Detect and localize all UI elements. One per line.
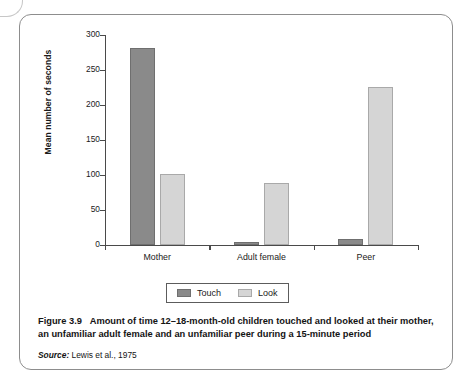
y-tick-label-wrap: 200 bbox=[64, 100, 100, 110]
y-tick-label-wrap: 50 bbox=[64, 205, 100, 215]
y-tick-label-wrap: 100 bbox=[64, 170, 100, 180]
figure-caption-label: Figure 3.9 bbox=[38, 316, 82, 326]
x-axis-line bbox=[105, 245, 418, 246]
y-axis-title: Mean number of seconds bbox=[43, 22, 53, 182]
x-axis-label-peer: Peer bbox=[314, 252, 418, 262]
chart-legend: TouchLook bbox=[166, 283, 289, 303]
x-tick-mark bbox=[105, 245, 106, 250]
legend-entry-look: Look bbox=[238, 288, 278, 298]
legend-label: Look bbox=[258, 288, 278, 298]
source-label: Source: bbox=[38, 350, 69, 360]
legend-swatch-look-icon bbox=[238, 289, 252, 297]
x-tick-mark bbox=[314, 245, 315, 250]
y-tick-label: 300 bbox=[72, 30, 100, 38]
y-tick-mark bbox=[100, 210, 105, 211]
bar-peer-touch bbox=[338, 239, 363, 245]
y-tick-mark bbox=[100, 70, 105, 71]
bar-peer-look bbox=[368, 87, 393, 245]
legend-entry-touch: Touch bbox=[177, 288, 221, 298]
source-value: Lewis et al., 1975 bbox=[72, 350, 137, 360]
y-tick-label-wrap: 0 bbox=[64, 240, 100, 250]
y-tick-label: 200 bbox=[72, 100, 100, 108]
bar-chart-plot: Mean number of seconds 05010015020025030… bbox=[20, 15, 453, 263]
bar-mother-look bbox=[160, 174, 185, 245]
y-tick-label: 50 bbox=[72, 205, 100, 213]
x-axis-label-mother: Mother bbox=[105, 252, 209, 262]
y-tick-label: 250 bbox=[72, 65, 100, 73]
y-tick-label-wrap: 150 bbox=[64, 135, 100, 145]
figure-source-line: Source: Lewis et al., 1975 bbox=[38, 350, 436, 360]
x-tick-mark bbox=[418, 245, 419, 250]
bar-adult-female-look bbox=[264, 183, 289, 245]
y-tick-mark bbox=[100, 35, 105, 36]
figure-caption: Figure 3.9 Amount of time 12–18-month-ol… bbox=[38, 315, 436, 341]
y-tick-label: 0 bbox=[72, 240, 100, 248]
legend-label: Touch bbox=[197, 288, 221, 298]
figure-caption-body: Amount of time 12–18-month-old children … bbox=[38, 316, 434, 339]
y-tick-label-wrap: 300 bbox=[64, 30, 100, 40]
figure-frame: Mean number of seconds 05010015020025030… bbox=[19, 14, 453, 370]
figure-caption-block: Figure 3.9 Amount of time 12–18-month-ol… bbox=[38, 315, 436, 360]
x-tick-mark bbox=[209, 245, 210, 250]
y-tick-mark bbox=[100, 140, 105, 141]
y-axis-line bbox=[105, 35, 106, 246]
legend-swatch-touch-icon bbox=[177, 289, 191, 297]
y-tick-label: 100 bbox=[72, 170, 100, 178]
bar-mother-touch bbox=[130, 48, 155, 245]
y-tick-label-wrap: 250 bbox=[64, 65, 100, 75]
y-tick-mark bbox=[100, 175, 105, 176]
y-tick-label: 150 bbox=[72, 135, 100, 143]
x-axis-label-adult-female: Adult female bbox=[209, 252, 313, 262]
y-tick-mark bbox=[100, 105, 105, 106]
bar-adult-female-touch bbox=[234, 242, 259, 245]
